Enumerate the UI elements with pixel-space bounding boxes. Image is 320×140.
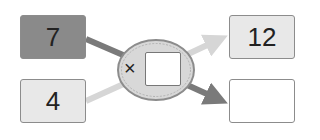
dark-connector-out [185,84,218,99]
input-box-top: 7 [20,15,86,59]
light-connector-out [186,40,218,55]
multiply-symbol: × [124,57,136,80]
output-box-top: 12 [229,15,295,59]
output-answer-box[interactable] [229,79,295,123]
input-box-bottom: 4 [20,79,86,123]
multiplier-answer-box[interactable] [145,52,181,86]
